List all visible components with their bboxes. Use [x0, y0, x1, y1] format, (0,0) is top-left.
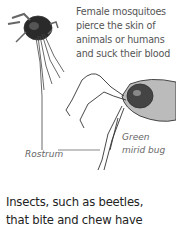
- caption-line: Female mosquitoes: [76, 5, 176, 19]
- caption-line: pierce the skin of: [76, 19, 176, 33]
- body-line: that bite and chew have: [6, 211, 176, 229]
- mirid-bug-label: Green mirid bug: [122, 131, 165, 157]
- mosquito-caption: Female mosquitoes pierce the skin of ani…: [76, 5, 176, 61]
- caption-line: and suck their blood: [76, 47, 176, 61]
- body-line: Insects, such as beetles,: [6, 193, 176, 211]
- label-line: Green: [122, 131, 165, 144]
- rostrum-label: Rostrum: [25, 148, 63, 161]
- body-paragraph: Insects, such as beetles, that bite and …: [6, 193, 176, 229]
- label-line: mirid bug: [122, 144, 165, 157]
- caption-line: animals or humans: [76, 33, 176, 47]
- mosquito-illustration: [8, 14, 64, 150]
